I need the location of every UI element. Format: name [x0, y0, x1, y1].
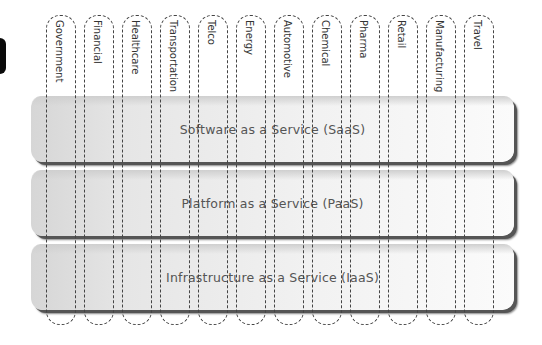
vertical-travel: Travel — [464, 15, 494, 325]
vertical-manufacturing: Manufacturing — [426, 15, 456, 325]
vertical-label: Financial — [92, 20, 103, 64]
vertical-label: Automotive — [282, 20, 293, 78]
vertical-label: Telco — [206, 20, 217, 45]
vertical-label: Travel — [472, 20, 483, 50]
vertical-healthcare: Healthcare — [122, 15, 152, 325]
vertical-label: Transportation — [168, 20, 179, 92]
vertical-transportation: Transportation — [160, 15, 190, 325]
vertical-government: Government — [46, 15, 76, 325]
vertical-label: Chemical — [320, 20, 331, 66]
vertical-chemical: Chemical — [312, 15, 342, 325]
vertical-label: Pharma — [358, 20, 369, 58]
vertical-label: Government — [54, 20, 65, 82]
vertical-label: Energy — [244, 20, 255, 55]
edge-marker-shape — [0, 38, 6, 74]
vertical-telco: Telco — [198, 15, 228, 325]
vertical-label: Healthcare — [130, 20, 141, 75]
vertical-financial: Financial — [84, 15, 114, 325]
vertical-energy: Energy — [236, 15, 266, 325]
vertical-label: Manufacturing — [434, 20, 445, 92]
vertical-label: Retail — [396, 20, 407, 48]
vertical-pharma: Pharma — [350, 15, 380, 325]
vertical-retail: Retail — [388, 15, 418, 325]
vertical-automotive: Automotive — [274, 15, 304, 325]
